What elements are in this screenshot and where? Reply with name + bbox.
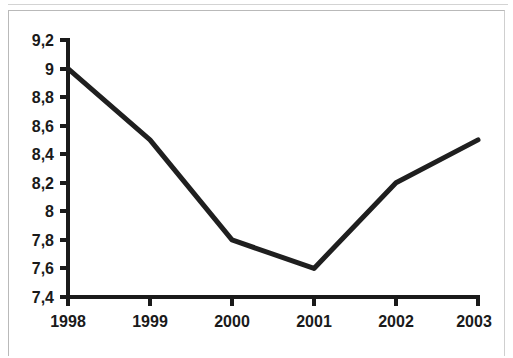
y-tick-label: 8	[45, 203, 54, 220]
x-tick-label: 1998	[50, 313, 86, 330]
x-tick-label: 2000	[214, 313, 250, 330]
x-tick-label: 2003	[456, 313, 492, 330]
line-chart-figure: 9,2 9 8,8 8,6 8,4 8,2 8 7,8 7,6 7,4 1998…	[0, 0, 513, 358]
y-tick-label: 8,8	[32, 89, 54, 106]
y-tick-label: 7,4	[32, 289, 54, 306]
y-tick-label: 8,2	[32, 175, 54, 192]
data-series-line	[68, 69, 478, 269]
x-tick-label: 2002	[378, 313, 414, 330]
y-tick-label: 9,2	[32, 32, 54, 49]
y-tick-label: 8,6	[32, 118, 54, 135]
y-tick-label: 7,6	[32, 260, 54, 277]
x-tick-label: 2001	[296, 313, 332, 330]
y-tick-label: 9	[45, 61, 54, 78]
chart-plot-area: 9,2 9 8,8 8,6 8,4 8,2 8 7,8 7,6 7,4 1998…	[0, 0, 513, 358]
y-tick-label: 8,4	[32, 146, 54, 163]
x-tick-label: 1999	[132, 313, 168, 330]
y-tick-label: 7,8	[32, 232, 54, 249]
